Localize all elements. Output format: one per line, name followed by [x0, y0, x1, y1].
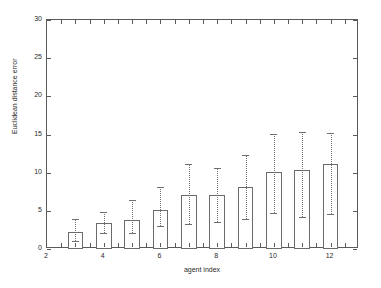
error-bar-line [302, 132, 303, 217]
x-tick-mark-top [118, 20, 119, 24]
x-tick-mark [217, 243, 218, 247]
y-tick-label: 5 [38, 206, 42, 214]
x-tick-mark-top [217, 20, 218, 24]
error-bar-line [217, 168, 218, 222]
x-tick-mark-top [302, 20, 303, 24]
x-tick-mark-top [203, 20, 204, 24]
error-bar-cap-lower [270, 213, 277, 214]
x-tick-mark [189, 243, 190, 247]
y-tick-mark-right [353, 58, 357, 59]
y-tick-mark [47, 249, 51, 250]
error-bar-cap-lower [157, 226, 164, 227]
error-bar-cap-lower [299, 217, 306, 218]
y-tick-label: 25 [34, 53, 42, 61]
x-tick-mark [160, 243, 161, 247]
error-bar-line [274, 134, 275, 213]
x-tick-mark [118, 243, 119, 247]
x-tick-mark-top [345, 20, 346, 24]
error-bar-cap-upper [100, 212, 107, 213]
x-tick-mark-top [104, 20, 105, 24]
x-tick-label: 6 [158, 252, 162, 260]
error-bar-cap-lower [214, 222, 221, 223]
x-tick-label: 10 [269, 252, 277, 260]
chart-figure: 051015202530 24681012 Euclidean distance… [0, 0, 381, 288]
y-tick-label: 10 [34, 168, 42, 176]
y-tick-mark [47, 58, 51, 59]
error-bar-cap-lower [327, 214, 334, 215]
error-bar-cap-upper [129, 200, 136, 201]
error-bar-cap-upper [157, 187, 164, 188]
x-tick-mark [146, 243, 147, 247]
y-tick-mark [47, 211, 51, 212]
x-axis-label: agent index [46, 266, 358, 273]
bars-layer [47, 20, 357, 247]
x-tick-mark-top [316, 20, 317, 24]
plot-area [46, 19, 358, 248]
x-tick-mark-top [331, 20, 332, 24]
error-bar-cap-lower [242, 219, 249, 220]
x-tick-mark-top [160, 20, 161, 24]
x-tick-mark-top [189, 20, 190, 24]
error-bar-cap-upper [270, 134, 277, 135]
x-tick-mark-top [274, 20, 275, 24]
error-bar-cap-lower [129, 233, 136, 234]
x-tick-mark [260, 243, 261, 247]
y-tick-label: 0 [38, 244, 42, 252]
error-bar-cap-lower [100, 233, 107, 234]
x-tick-label: 8 [214, 252, 218, 260]
x-tick-mark [90, 243, 91, 247]
x-tick-mark [274, 243, 275, 247]
x-tick-mark [61, 243, 62, 247]
error-bar-line [189, 164, 190, 224]
x-tick-mark-top [61, 20, 62, 24]
x-tick-mark [203, 243, 204, 247]
error-bar-line [246, 155, 247, 219]
error-bar-line [104, 212, 105, 233]
y-tick-label: 30 [34, 15, 42, 23]
error-bar-cap-upper [185, 164, 192, 165]
x-axis-tick-labels: 24681012 [46, 252, 358, 264]
error-bar-line [132, 200, 133, 233]
y-tick-mark [47, 135, 51, 136]
x-tick-mark-top [288, 20, 289, 24]
x-tick-label: 12 [326, 252, 334, 260]
x-tick-mark-top [90, 20, 91, 24]
y-tick-mark-right [353, 135, 357, 136]
x-tick-mark-top [75, 20, 76, 24]
x-tick-mark-top [246, 20, 247, 24]
error-bar-cap-upper [299, 132, 306, 133]
x-tick-mark [231, 243, 232, 247]
x-tick-mark [331, 243, 332, 247]
x-tick-mark [132, 243, 133, 247]
x-tick-mark-top [132, 20, 133, 24]
x-tick-mark-top [175, 20, 176, 24]
y-tick-label: 20 [34, 91, 42, 99]
x-tick-mark [75, 243, 76, 247]
x-tick-mark-top [231, 20, 232, 24]
y-tick-mark-right [353, 249, 357, 250]
y-tick-mark [47, 20, 51, 21]
error-bar-line [331, 133, 332, 214]
x-tick-mark [316, 243, 317, 247]
x-tick-mark [302, 243, 303, 247]
error-bar-cap-upper [242, 155, 249, 156]
error-bar-cap-upper [72, 219, 79, 220]
error-bar-cap-upper [214, 168, 221, 169]
error-bar-line [75, 219, 76, 241]
y-axis-tick-labels: 051015202530 [22, 19, 42, 248]
x-tick-mark [175, 243, 176, 247]
x-tick-mark [345, 243, 346, 247]
y-tick-mark-right [353, 96, 357, 97]
error-bar-cap-lower [185, 224, 192, 225]
x-tick-mark-top [260, 20, 261, 24]
error-bar-cap-upper [327, 133, 334, 134]
x-tick-mark [288, 243, 289, 247]
x-tick-label: 4 [101, 252, 105, 260]
x-tick-mark [246, 243, 247, 247]
x-tick-label: 2 [44, 252, 48, 260]
y-tick-mark-right [353, 20, 357, 21]
y-tick-mark [47, 173, 51, 174]
y-tick-mark-right [353, 173, 357, 174]
error-bar-line [160, 187, 161, 226]
x-tick-mark [104, 243, 105, 247]
